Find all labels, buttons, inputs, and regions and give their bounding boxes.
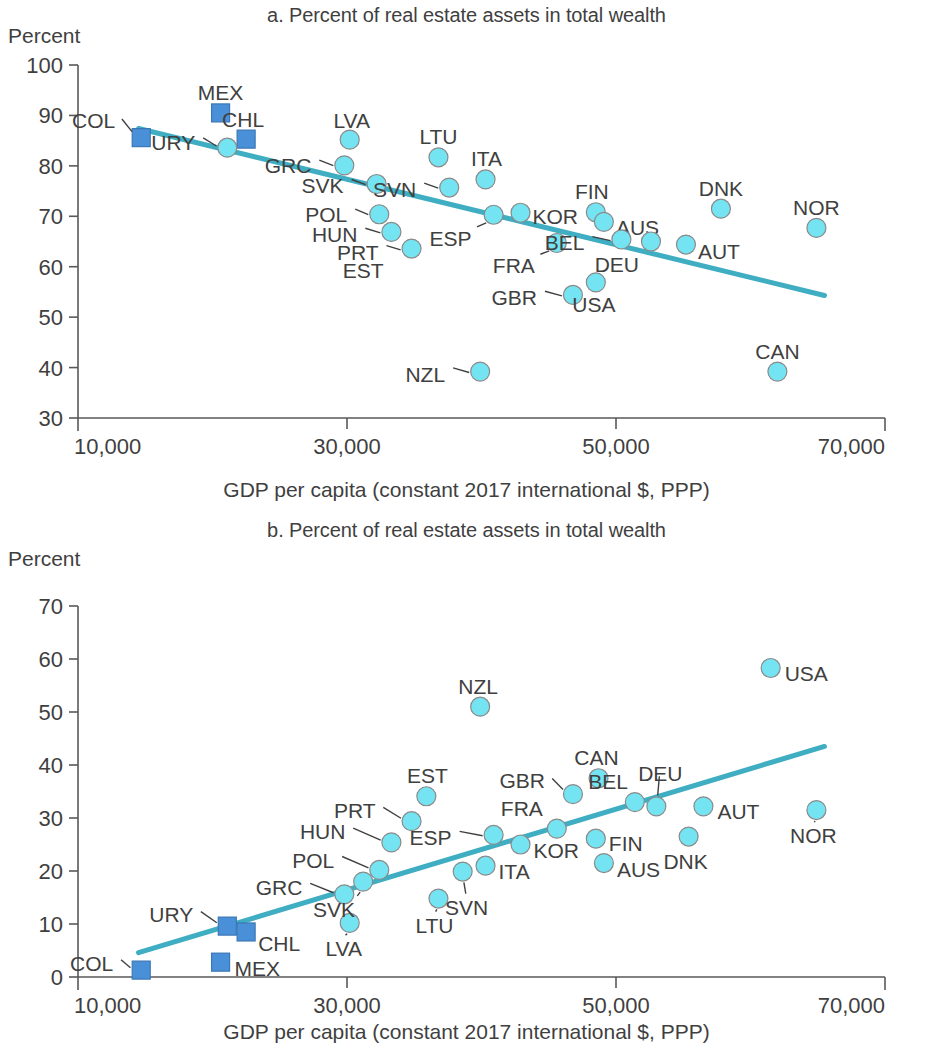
data-point-label: DEU [638, 762, 682, 785]
data-point-label: AUT [698, 240, 740, 263]
y-tick-label: 30 [39, 806, 63, 831]
data-point-marker[interactable] [807, 218, 826, 237]
data-point-marker[interactable] [694, 797, 713, 816]
x-tick-label: 10,000 [74, 993, 141, 1018]
data-point-marker[interactable] [340, 130, 359, 149]
data-point-marker[interactable] [212, 953, 230, 971]
label-leader-line [814, 821, 815, 822]
data-point-marker[interactable] [594, 854, 613, 873]
data-point-marker[interactable] [132, 961, 150, 979]
data-point-label: MEX [198, 81, 244, 104]
x-tick-label: 30,000 [313, 993, 380, 1018]
data-point-marker[interactable] [237, 130, 255, 148]
data-point-marker[interactable] [647, 797, 666, 816]
data-point-marker[interactable] [484, 825, 503, 844]
data-point-marker[interactable] [511, 203, 530, 222]
y-tick-label: 50 [39, 305, 63, 330]
data-point-label: BEL [545, 231, 585, 254]
label-leader-line [345, 934, 347, 935]
panel-b-plot: 01020304050607010,00030,00050,00070,000C… [0, 537, 933, 1007]
data-point-marker[interactable] [711, 199, 730, 218]
chart-panel-b: b. Percent of real estate assets in tota… [0, 515, 933, 1046]
data-point-marker[interactable] [761, 659, 780, 678]
data-point-marker[interactable] [563, 785, 582, 804]
data-point-marker[interactable] [586, 829, 605, 848]
data-point-label: ESP [430, 227, 472, 250]
data-point-marker[interactable] [335, 156, 354, 175]
label-leader-line [357, 892, 360, 896]
data-point-marker[interactable] [370, 205, 389, 224]
data-point-label: SVK [313, 898, 355, 921]
y-tick-label: 40 [39, 356, 63, 381]
label-leader-line [436, 909, 437, 911]
data-point-label: SVK [302, 174, 344, 197]
data-point-marker[interactable] [218, 917, 236, 935]
data-point-marker[interactable] [612, 230, 631, 249]
data-point-marker[interactable] [547, 819, 566, 838]
x-tick-label: 50,000 [582, 993, 649, 1018]
data-point-marker[interactable] [402, 239, 421, 258]
y-tick-label: 90 [39, 103, 63, 128]
data-point-marker[interactable] [429, 148, 448, 167]
data-point-marker[interactable] [586, 273, 605, 292]
data-point-marker[interactable] [237, 923, 255, 941]
data-point-label: FIN [575, 180, 609, 203]
data-point-marker[interactable] [382, 222, 401, 241]
data-point-marker[interactable] [471, 362, 490, 381]
data-point-marker[interactable] [370, 860, 389, 879]
data-point-marker[interactable] [594, 212, 613, 231]
data-point-label: COL [72, 109, 115, 132]
data-point-label: ITA [471, 147, 502, 170]
data-point-label: CAN [574, 746, 618, 769]
label-leader-line [383, 807, 401, 818]
data-point-label: USA [785, 662, 828, 685]
data-point-label: EST [343, 259, 384, 282]
label-leader-line [310, 883, 333, 892]
data-point-label: NZL [405, 363, 445, 386]
data-point-marker[interactable] [768, 362, 787, 381]
data-point-marker[interactable] [625, 793, 644, 812]
data-point-marker[interactable] [471, 697, 490, 716]
data-point-marker[interactable] [679, 827, 698, 846]
label-leader-line [353, 828, 380, 840]
data-point-marker[interactable] [807, 801, 826, 820]
data-point-label: CHL [222, 108, 264, 131]
label-leader-line [355, 209, 368, 215]
data-point-label: DNK [663, 850, 707, 873]
label-leader-line [121, 960, 130, 968]
data-point-marker[interactable] [511, 835, 530, 854]
data-point-marker[interactable] [440, 178, 459, 197]
data-point-marker[interactable] [382, 833, 401, 852]
data-point-marker[interactable] [453, 862, 472, 881]
data-point-marker[interactable] [676, 235, 695, 254]
data-point-label: PRT [334, 799, 376, 822]
y-tick-label: 10 [39, 912, 63, 937]
data-point-label: HUN [300, 820, 346, 843]
data-point-label: COL [70, 952, 113, 975]
data-point-label: LVA [325, 937, 362, 960]
data-point-label: ESP [410, 826, 452, 849]
data-point-label: GBR [499, 769, 545, 792]
data-point-label: EST [407, 764, 448, 787]
data-point-label: KOR [533, 205, 579, 228]
label-leader-line [453, 368, 469, 373]
data-point-marker[interactable] [476, 170, 495, 189]
y-tick-label: 50 [39, 700, 63, 725]
x-tick-label: 70,000 [818, 434, 885, 459]
figure-root: a. Percent of real estate assets in tota… [0, 0, 933, 1046]
data-point-marker[interactable] [641, 232, 660, 251]
data-point-label: FRA [501, 797, 543, 820]
data-point-marker[interactable] [476, 856, 495, 875]
data-point-label: URY [149, 903, 193, 926]
x-tick-label: 50,000 [582, 434, 649, 459]
data-point-marker[interactable] [484, 205, 503, 224]
data-point-marker[interactable] [354, 872, 373, 891]
data-point-label: BEL [588, 770, 628, 793]
label-leader-line [552, 779, 563, 790]
label-leader-line [424, 183, 438, 188]
data-point-marker[interactable] [218, 138, 237, 157]
data-point-marker[interactable] [132, 129, 150, 147]
y-tick-label: 40 [39, 753, 63, 778]
data-point-marker[interactable] [417, 787, 436, 806]
data-point-label: URY [151, 131, 195, 154]
